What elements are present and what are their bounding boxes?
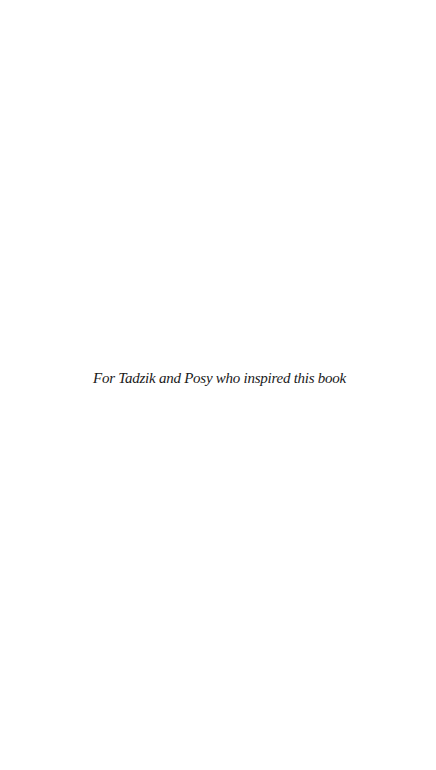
dedication-text: For Tadzik and Posy who inspired this bo… <box>93 369 309 387</box>
book-page: For Tadzik and Posy who inspired this bo… <box>0 0 436 770</box>
